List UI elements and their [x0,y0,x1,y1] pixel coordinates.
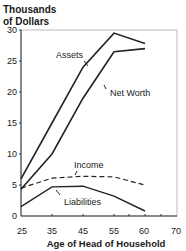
plot-frame [21,30,177,216]
label-assets: Assets [56,50,84,60]
x-tick-45: 45 [75,226,91,236]
x-tick-70: 70 [168,226,184,236]
arrow-net-worth [104,85,106,89]
x-tick-55: 55 [106,226,122,236]
x-tick-25: 25 [14,226,30,236]
x-tick-60: 60 [136,226,152,236]
plot-area: Assets Net Worth Income Liabilities [0,0,186,251]
label-net-worth: Net Worth [110,88,150,98]
x-axis-title: Age of Head of Household [26,238,186,249]
x-tick-35: 35 [44,226,60,236]
arrow-income [75,171,77,175]
arrow-liabilities [56,190,60,195]
label-income: Income [74,160,104,170]
label-liabilities: Liabilities [64,197,102,207]
